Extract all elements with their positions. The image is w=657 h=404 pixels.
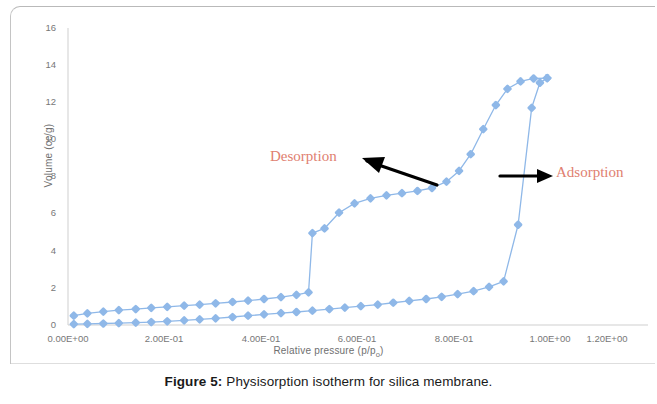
data-point-marker xyxy=(421,294,431,304)
desorption-arrow xyxy=(362,157,437,185)
data-point-marker xyxy=(478,124,488,134)
data-point-marker xyxy=(484,282,494,292)
data-point-marker xyxy=(276,292,286,302)
annotation-adsorption-label: Adsorption xyxy=(556,164,624,181)
y-tick-label: 4 xyxy=(30,245,56,256)
x-tick-label: 0.00E+00 xyxy=(23,333,113,344)
data-point-marker xyxy=(276,308,286,318)
y-tick-label: 16 xyxy=(30,22,56,33)
data-point-marker xyxy=(228,297,238,307)
data-point-marker xyxy=(308,228,318,238)
data-point-marker xyxy=(308,306,318,316)
data-point-marker xyxy=(179,301,189,311)
data-point-marker xyxy=(397,188,407,198)
chart-plot-area xyxy=(0,0,657,368)
data-point-marker xyxy=(243,311,253,321)
figure-caption-text: Physisorption isotherm for silica membra… xyxy=(222,374,492,389)
data-point-marker xyxy=(356,301,366,311)
data-point-marker xyxy=(162,302,172,312)
data-point-marker xyxy=(292,290,302,300)
y-axis-title: Volume (cc/g) xyxy=(43,96,54,216)
data-point-marker xyxy=(179,316,189,326)
data-point-marker xyxy=(413,186,423,196)
data-point-marker xyxy=(453,289,463,299)
data-series-layer xyxy=(69,73,552,329)
data-point-marker xyxy=(340,303,350,313)
data-point-marker xyxy=(259,294,269,304)
data-point-marker xyxy=(469,286,479,296)
data-point-marker xyxy=(366,194,376,204)
data-point-marker xyxy=(83,309,93,319)
data-point-marker xyxy=(513,220,523,230)
x-tick-label: 1.20E+00 xyxy=(562,333,652,344)
data-point-marker xyxy=(211,314,221,324)
x-axis-title-end: ) xyxy=(380,345,384,356)
annotation-desorption-label: Desorption xyxy=(270,148,337,165)
data-point-marker xyxy=(516,77,526,87)
data-point-marker xyxy=(304,288,314,298)
data-point-marker xyxy=(503,84,513,94)
x-tick-label: 4.00E-01 xyxy=(216,333,306,344)
data-point-marker xyxy=(404,296,414,306)
data-point-marker xyxy=(211,298,221,308)
data-point-marker xyxy=(69,319,79,329)
x-axis-title: Relative pressure (p/po) xyxy=(0,345,657,359)
data-point-marker xyxy=(228,312,238,322)
data-point-marker xyxy=(499,277,509,287)
data-point-marker xyxy=(99,319,109,329)
data-point-marker xyxy=(195,315,205,325)
data-point-marker xyxy=(437,292,447,302)
data-point-marker xyxy=(259,310,269,320)
data-point-marker xyxy=(99,307,109,317)
data-point-marker xyxy=(114,305,124,315)
series-line-desorption xyxy=(74,78,547,316)
data-point-marker xyxy=(491,100,501,110)
data-point-marker xyxy=(388,298,398,308)
data-point-marker xyxy=(466,149,476,159)
y-tick-label: 14 xyxy=(30,59,56,70)
data-point-marker xyxy=(292,307,302,317)
figure-physisorption-isotherm: 16 14 12 10 8 6 4 2 0 0.00E+00 2.00E-01 … xyxy=(0,0,657,368)
data-point-marker xyxy=(131,318,141,328)
x-axis-title-main: Relative pressure (p/p xyxy=(273,345,375,356)
figure-caption: Figure 5: Physisorption isotherm for sil… xyxy=(0,374,657,389)
adsorption-arrow xyxy=(500,169,553,183)
data-point-marker xyxy=(146,303,156,313)
y-tick-label: 0 xyxy=(30,319,56,330)
data-point-marker xyxy=(325,304,335,314)
data-point-marker xyxy=(373,300,383,310)
x-tick-label: 2.00E-01 xyxy=(119,333,209,344)
data-point-marker xyxy=(195,300,205,310)
data-point-marker xyxy=(542,73,552,83)
data-point-marker xyxy=(527,103,537,113)
x-tick-label: 8.00E-01 xyxy=(409,333,499,344)
data-point-marker xyxy=(69,311,79,321)
data-point-marker xyxy=(83,319,93,329)
x-tick-label: 6.00E-01 xyxy=(312,333,402,344)
series-line-adsorption xyxy=(74,78,547,324)
data-point-marker xyxy=(131,304,141,314)
data-point-marker xyxy=(243,296,253,306)
y-tick-label: 2 xyxy=(30,282,56,293)
data-point-marker xyxy=(382,191,392,201)
figure-caption-label: Figure 5: xyxy=(165,374,223,389)
data-point-marker xyxy=(114,318,124,328)
data-point-marker xyxy=(350,199,360,209)
